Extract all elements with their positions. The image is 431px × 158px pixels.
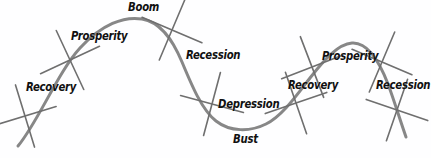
phase-label-prosperity-1: Prosperity bbox=[71, 31, 127, 43]
cycle-graphic bbox=[0, 0, 431, 158]
phase-label-recession-2: Recession bbox=[376, 80, 430, 92]
phase-label-prosperity-2: Prosperity bbox=[322, 51, 378, 63]
phase-label-recession-1: Recession bbox=[186, 50, 240, 62]
phase-label-depression-1: Depression bbox=[218, 99, 279, 111]
phase-label-recovery-2: Recovery bbox=[288, 80, 338, 92]
tick-stroke bbox=[0, 85, 56, 147]
phase-label-recovery-1: Recovery bbox=[26, 82, 76, 94]
phase-label-boom-1: Boom bbox=[128, 2, 159, 14]
business-cycle-diagram: RecoveryProsperityBoomRecessionDepressio… bbox=[0, 0, 431, 158]
phase-divider-tick bbox=[0, 85, 56, 147]
tick-stroke bbox=[0, 85, 56, 147]
phase-divider-ticks bbox=[0, 0, 428, 147]
phase-label-bust-1: Bust bbox=[233, 134, 258, 146]
